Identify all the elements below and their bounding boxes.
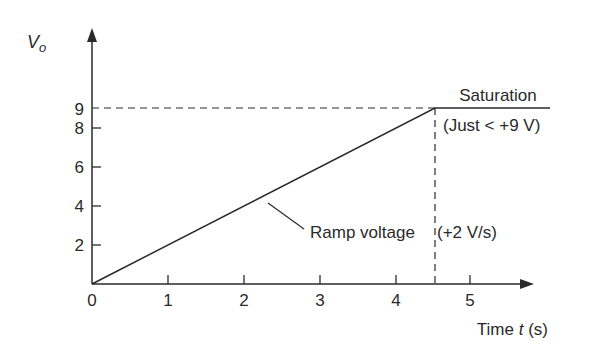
saturation-label: Saturation [459, 86, 537, 105]
x-axis-label: Time t (s) [477, 320, 548, 339]
x-axis-arrow-icon [520, 279, 534, 289]
y-tick-labels: 2 4 6 8 9 [75, 100, 84, 255]
ramp-annotation-leader [268, 203, 304, 229]
x-tick-label: 0 [87, 291, 96, 310]
x-tick-labels: 0 1 2 3 4 5 [87, 291, 474, 310]
y-tick-label: 8 [75, 119, 84, 138]
x-tick-label: 2 [239, 291, 248, 310]
ramp-slope-label: (+2 V/s) [437, 223, 497, 242]
ramp-voltage-chart: Vo 2 4 6 8 9 0 1 2 3 4 5 Time t (s) Ramp… [0, 0, 590, 358]
ramp-annotation-label: Ramp voltage [310, 223, 415, 242]
y-axis-arrow-icon [87, 28, 97, 42]
x-tick-label: 3 [315, 291, 324, 310]
y-tick-label: 9 [75, 100, 84, 119]
x-ticks [168, 275, 470, 284]
x-tick-label: 5 [465, 291, 474, 310]
x-tick-label: 4 [391, 291, 400, 310]
x-tick-label: 1 [163, 291, 172, 310]
y-axis-label: Vo [27, 32, 46, 55]
y-tick-label: 4 [75, 197, 84, 216]
y-ticks [92, 128, 101, 245]
y-tick-label: 2 [75, 236, 84, 255]
saturation-note: (Just < +9 V) [443, 116, 540, 135]
y-tick-label: 6 [75, 158, 84, 177]
